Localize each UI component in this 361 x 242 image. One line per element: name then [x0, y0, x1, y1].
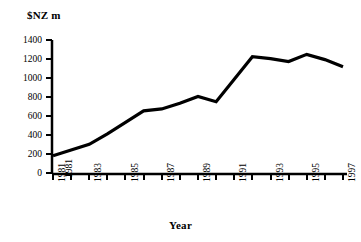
- x-tick-label-1983: 1983: [93, 163, 103, 182]
- x-tick-label-1993: 1993: [275, 163, 285, 182]
- x-tick-label-1989: 1989: [202, 163, 212, 182]
- x-tick-label-1995: 1995: [311, 163, 321, 182]
- plot-area: [0, 0, 361, 242]
- x-tick-label-1981: 1981: [57, 163, 67, 182]
- x-tick-label-1987: 1987: [166, 163, 176, 182]
- x-tick-label-1991: 1991: [238, 163, 248, 182]
- x-axis-title: Year: [0, 219, 361, 231]
- x-tick-label-1985: 1985: [130, 163, 140, 182]
- x-tick-label-1997: 1997: [347, 163, 357, 182]
- data-series-line: [53, 54, 343, 155]
- chart-container: $NZ m 1400 1200 1000 800 600 400 200 0 1…: [0, 0, 361, 242]
